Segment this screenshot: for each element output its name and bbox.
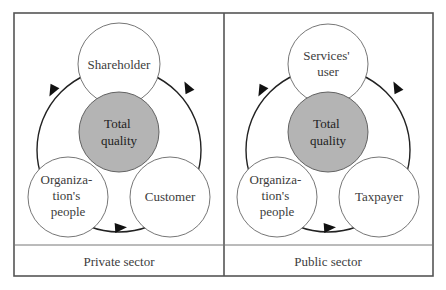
label-line: Services' bbox=[303, 48, 349, 63]
label-line: tion's bbox=[262, 188, 290, 203]
panel-footer-label: Private sector bbox=[83, 254, 155, 269]
label-line: quality bbox=[310, 133, 347, 148]
label-line: Total bbox=[104, 116, 131, 131]
node-center-total-quality bbox=[288, 92, 368, 172]
label-line: people bbox=[260, 204, 295, 219]
label-line: Organiza- bbox=[250, 172, 302, 187]
arrow-counterclockwise-right-icon bbox=[180, 79, 194, 94]
label-line: Organiza- bbox=[41, 172, 93, 187]
label-line: user bbox=[317, 64, 339, 79]
arrow-counterclockwise-right-icon bbox=[389, 79, 403, 94]
label-line: Shareholder bbox=[88, 57, 151, 72]
label-line: people bbox=[51, 204, 86, 219]
node-center-total-quality bbox=[79, 92, 159, 172]
total-quality-diagram: Shareholder Total quality Organiza- tion… bbox=[0, 0, 446, 290]
panel-private-sector: Shareholder Total quality Organiza- tion… bbox=[28, 23, 210, 269]
label-line: Taxpayer bbox=[355, 189, 404, 204]
label-line: tion's bbox=[53, 188, 81, 203]
label-top: Shareholder bbox=[88, 57, 151, 72]
label-line: Customer bbox=[145, 189, 196, 204]
label-line: Total bbox=[313, 116, 340, 131]
label-bottom-right: Taxpayer bbox=[355, 189, 404, 204]
label-line: quality bbox=[101, 133, 138, 148]
label-bottom-right: Customer bbox=[145, 189, 196, 204]
panel-footer-label: Public sector bbox=[294, 254, 362, 269]
panel-public-sector: Services' user Total quality Organiza- t… bbox=[237, 24, 419, 269]
